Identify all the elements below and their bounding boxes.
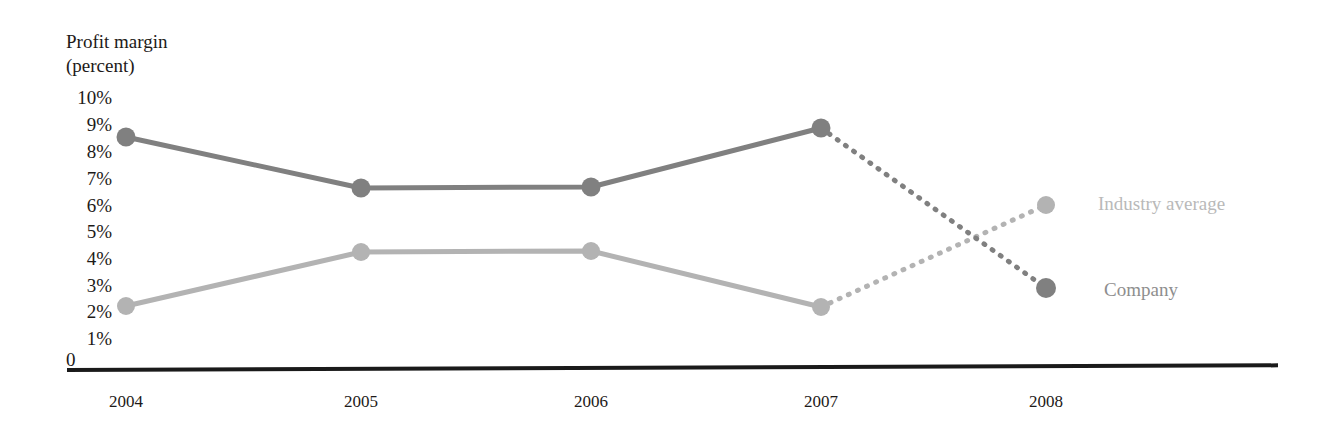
company-point-2005 [352,179,371,198]
x-axis-tick-2008: 2008 [1029,392,1063,412]
company-point-2004 [117,128,136,147]
industry-average-dotted-projection [821,205,1046,307]
company-point-2008 [1036,278,1056,298]
industry-average-solid-line [126,251,821,307]
industry-average-point-2005 [352,243,370,261]
company-dotted-projection [821,128,1046,288]
industry-average-point-2006 [582,242,600,260]
plot-area [0,0,1337,445]
legend-label-industry-average: Industry average [1098,193,1225,215]
company-point-2006 [582,178,601,197]
legend-label-company: Company [1104,279,1178,301]
company-point-2007 [812,119,831,138]
industry-average-point-2004 [117,297,135,315]
industry-average-point-2007 [812,298,830,316]
x-axis-tick-2004: 2004 [109,392,143,412]
x-axis-tick-2005: 2005 [344,392,378,412]
company-solid-line [126,128,821,188]
profit-margin-line-chart: Profit margin (percent) 10% 9% 8% 7% 6% … [0,0,1337,445]
x-axis-tick-2007: 2007 [804,392,838,412]
x-axis-tick-2006: 2006 [574,392,608,412]
industry-average-point-2008 [1037,196,1055,214]
